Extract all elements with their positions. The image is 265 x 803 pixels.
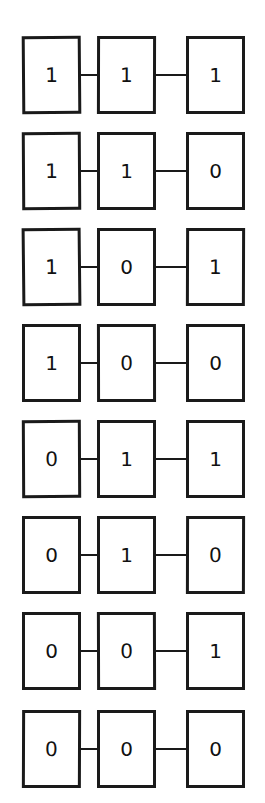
bit-box: 0 <box>22 420 81 498</box>
bit-value: 0 <box>189 713 242 785</box>
bit-box: 1 <box>22 36 82 114</box>
bit-box: 1 <box>22 324 81 402</box>
connector-line <box>81 650 97 652</box>
bit-value: 1 <box>189 615 242 687</box>
bit-box: 0 <box>97 228 156 306</box>
bit-value: 0 <box>25 423 78 495</box>
bit-box: 0 <box>22 710 81 788</box>
connector-line <box>81 554 97 556</box>
bit-row: 110 <box>0 132 265 210</box>
bit-box: 0 <box>186 324 245 402</box>
bit-value: 1 <box>25 135 78 207</box>
bit-box: 0 <box>186 132 245 210</box>
bit-box: 0 <box>186 710 245 788</box>
bit-box: 1 <box>22 228 82 307</box>
bit-box: 1 <box>97 36 156 114</box>
connector-line <box>81 362 97 364</box>
bit-row: 000 <box>0 710 265 788</box>
connector-line <box>81 170 97 172</box>
bit-box: 0 <box>22 612 81 690</box>
connector-line <box>81 748 97 750</box>
bit-box: 1 <box>186 420 245 498</box>
bit-value: 1 <box>25 231 79 304</box>
connector-line <box>156 748 186 750</box>
bit-value: 0 <box>189 327 242 399</box>
bit-box: 1 <box>97 420 156 498</box>
connector-line <box>156 266 186 268</box>
bit-value: 0 <box>25 615 78 687</box>
bit-value: 0 <box>25 713 78 785</box>
bit-value: 1 <box>100 135 153 207</box>
connector-line <box>81 74 97 76</box>
bit-value: 0 <box>189 135 242 207</box>
connector-line <box>156 458 186 460</box>
bit-row: 010 <box>0 516 265 594</box>
bit-row: 100 <box>0 324 265 402</box>
bit-value: 1 <box>100 423 153 495</box>
bit-row: 101 <box>0 228 265 306</box>
bit-value: 0 <box>189 519 242 591</box>
bit-value: 0 <box>100 327 153 399</box>
bit-box: 1 <box>97 516 156 594</box>
bit-box: 0 <box>97 324 156 402</box>
bit-value: 0 <box>100 713 153 785</box>
bit-box: 1 <box>22 132 81 210</box>
connector-line <box>81 458 97 460</box>
bit-value: 1 <box>189 231 242 303</box>
bit-value: 1 <box>25 327 78 399</box>
bit-row: 111 <box>0 36 265 114</box>
connector-line <box>156 650 186 652</box>
connector-line <box>156 74 186 76</box>
bit-box: 0 <box>97 710 156 788</box>
bit-box: 1 <box>97 132 156 210</box>
bit-box: 0 <box>97 612 156 690</box>
bit-value: 0 <box>100 615 153 687</box>
connector-line <box>81 266 97 268</box>
bit-value: 1 <box>189 423 242 495</box>
bit-row: 001 <box>0 612 265 690</box>
bit-row: 011 <box>0 420 265 498</box>
connector-line <box>156 170 186 172</box>
connector-line <box>156 362 186 364</box>
bit-value: 0 <box>25 519 78 591</box>
bit-box: 1 <box>186 36 245 114</box>
bit-value: 1 <box>189 39 242 111</box>
bit-value: 0 <box>100 231 153 303</box>
bit-box: 0 <box>186 516 245 594</box>
bit-box: 1 <box>186 228 245 306</box>
connector-line <box>156 554 186 556</box>
bit-box: 1 <box>186 612 245 690</box>
bit-value: 1 <box>25 39 79 111</box>
bit-value: 1 <box>100 39 153 111</box>
binary-chain-diagram: 111110101100011010001000 <box>0 0 265 803</box>
bit-box: 0 <box>22 516 81 594</box>
bit-value: 1 <box>100 519 153 591</box>
